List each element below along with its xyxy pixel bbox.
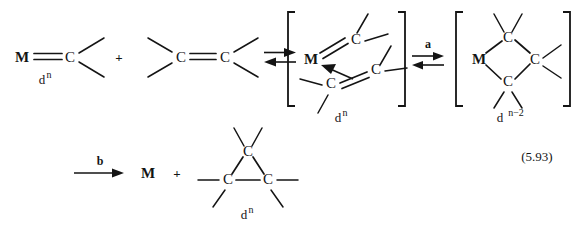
species-alkene: C C bbox=[148, 38, 258, 77]
species-pi-complex: M C C C d n bbox=[288, 12, 407, 125]
step-label-a: a bbox=[425, 37, 431, 51]
electron-count-dn-minus-2: d n−2 bbox=[497, 107, 524, 125]
pi-alkene-sub-right-up bbox=[380, 46, 391, 65]
electron-count-dn-2: d n bbox=[335, 107, 348, 125]
electron-count-dn-3: d n bbox=[241, 204, 254, 222]
ring-sub-right-up bbox=[543, 45, 561, 58]
ring-atom-C-right: C bbox=[530, 51, 540, 67]
pi-alkene-sub-right-h bbox=[385, 68, 407, 71]
pi-alkene-sub-left bbox=[300, 79, 322, 85]
electron-count-dn-1: d n bbox=[39, 69, 52, 87]
bracket-left-metallacycle bbox=[456, 12, 463, 106]
alkene-sub-right-up bbox=[234, 38, 258, 52]
eq2-top-head bbox=[433, 52, 444, 61]
ring-sub-bottom-left bbox=[494, 92, 504, 108]
reaction-scheme: M C d n + C C M bbox=[0, 0, 580, 226]
alkene-sub-right-down bbox=[234, 63, 258, 77]
ring-bond-Ctop-Cright bbox=[515, 40, 530, 53]
pi-alkene-sub-down bbox=[318, 95, 328, 113]
d-label: d bbox=[241, 207, 248, 222]
alkene-atom-C-right: C bbox=[220, 49, 230, 65]
cp-bond-top-left bbox=[232, 157, 243, 174]
pi-carbene-sub-right bbox=[365, 34, 388, 41]
pi-alkene-double-upper bbox=[340, 72, 367, 83]
alkene-sub-left-down bbox=[148, 63, 172, 77]
cp-sub-right-down bbox=[271, 190, 283, 207]
pi-carbene-sub-up bbox=[357, 14, 368, 33]
arrow-equilibrium-1 bbox=[264, 48, 296, 67]
d-label: d bbox=[335, 110, 342, 125]
d-superscript: n bbox=[47, 69, 52, 80]
pi-atom-C-carbene: C bbox=[351, 31, 361, 47]
substituent-down bbox=[79, 62, 104, 77]
pi-alkene-double-lower bbox=[342, 78, 369, 89]
ring-sub-bottom-right bbox=[512, 92, 522, 108]
atom-label-M: M bbox=[15, 49, 29, 65]
bracket-right-pi-complex bbox=[398, 12, 405, 106]
cp-bond-top-right bbox=[253, 157, 264, 174]
arrow-b-head bbox=[112, 169, 124, 178]
d-superscript: n−2 bbox=[508, 107, 524, 118]
pi-MC-double-upper bbox=[320, 38, 345, 53]
alkene-sub-left-up bbox=[148, 38, 172, 52]
species-metal-carbene: M C d n bbox=[15, 38, 104, 87]
ring-bond-M-Ctop bbox=[486, 41, 502, 53]
arrow-forward-b: b bbox=[74, 154, 124, 178]
pi-MC-double-lower bbox=[323, 44, 348, 59]
cp-sub-top-left bbox=[234, 128, 244, 146]
arrow-equilibrium-2: a bbox=[412, 37, 444, 70]
plus-sign-2: + bbox=[173, 166, 180, 181]
equation-number: (5.93) bbox=[521, 149, 552, 164]
pi-atom-C-alkene-left: C bbox=[326, 75, 336, 91]
free-metal-label: M bbox=[141, 165, 155, 181]
eq2-bottom-head bbox=[412, 61, 423, 70]
pi-atom-M: M bbox=[304, 51, 318, 67]
bracket-right-metallacycle bbox=[563, 12, 570, 106]
step-label-b: b bbox=[97, 154, 104, 168]
cp-sub-top-right bbox=[252, 128, 262, 146]
eq1-bottom-head bbox=[264, 58, 276, 67]
ring-atom-C-bottom: C bbox=[503, 73, 513, 89]
alkene-atom-C-left: C bbox=[176, 49, 186, 65]
d-label: d bbox=[497, 110, 504, 125]
ring-bond-Cright-Cbottom bbox=[515, 64, 530, 79]
bracket-left-pi-complex bbox=[288, 12, 295, 106]
d-superscript: n bbox=[343, 107, 348, 118]
cp-sub-left-down bbox=[213, 190, 225, 207]
d-label: d bbox=[39, 72, 46, 87]
plus-sign-1: + bbox=[115, 50, 122, 65]
species-cyclopropane: C C C d n bbox=[198, 128, 298, 222]
ring-sub-right-down bbox=[543, 66, 561, 78]
pi-atom-C-alkene-right: C bbox=[371, 61, 381, 77]
species-metallacyclobutane: M C C C d n−2 bbox=[456, 12, 570, 125]
coord-head bbox=[321, 64, 336, 74]
ring-sub-top-left bbox=[494, 14, 504, 32]
ring-sub-top-right bbox=[512, 14, 522, 32]
d-superscript: n bbox=[249, 204, 254, 215]
substituent-up bbox=[79, 38, 104, 53]
ring-atom-M: M bbox=[472, 51, 486, 67]
ring-bond-Cbottom-M bbox=[486, 65, 501, 79]
atom-label-C: C bbox=[65, 49, 75, 65]
eq1-top-head bbox=[284, 48, 296, 57]
